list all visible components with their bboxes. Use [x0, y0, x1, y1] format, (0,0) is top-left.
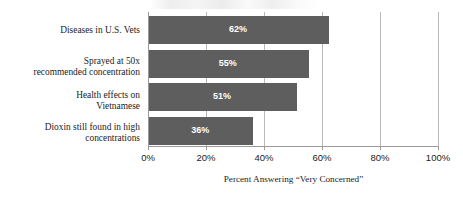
axis-tick-label-100: 100%	[418, 152, 458, 163]
category-label-0-line-0: Diseases in U.S. Vets	[0, 25, 140, 36]
axis-tick-20	[206, 146, 207, 150]
category-label-2-line-0: Health effects on	[0, 90, 140, 101]
category-label-0: Diseases in U.S. Vets	[0, 25, 140, 36]
plot-area: 62%55%51%36%	[148, 12, 438, 146]
category-label-2-line-1: Vietnamese	[0, 101, 140, 112]
bar-value-label-0: 62%	[229, 25, 247, 34]
axis-tick-80	[380, 146, 381, 150]
category-axis-line	[148, 146, 439, 147]
bar-value-label-2: 51%	[213, 92, 231, 101]
bar-value-label-1: 55%	[219, 59, 237, 68]
axis-tick-label-80: 80%	[360, 152, 400, 163]
category-label-1-line-1: recommended concentration	[0, 67, 140, 78]
category-label-1: Sprayed at 50x recommended concentration	[0, 56, 140, 79]
axis-tick-60	[322, 146, 323, 150]
category-label-3-line-0: Dioxin still found in high	[0, 122, 140, 133]
axis-tick-100	[438, 146, 439, 150]
gridline-100	[438, 12, 439, 146]
axis-tick-40	[264, 146, 265, 150]
category-label-1-line-0: Sprayed at 50x	[0, 56, 140, 67]
gridline-80	[380, 12, 381, 146]
category-label-3: Dioxin still found in high concentration…	[0, 122, 140, 145]
category-label-2: Health effects on Vietnamese	[0, 90, 140, 113]
axis-tick-label-20: 20%	[186, 152, 226, 163]
axis-tick-label-0: 0%	[128, 152, 168, 163]
bar-value-label-3: 36%	[191, 126, 209, 135]
bar-chart: Diseases in U.S. Vets Sprayed at 50x rec…	[0, 0, 463, 198]
axis-tick-0	[148, 146, 149, 150]
x-axis-title: Percent Answering “Very Concerned”	[148, 174, 439, 184]
axis-tick-label-60: 60%	[302, 152, 342, 163]
scan-artifact	[150, 0, 320, 9]
category-label-3-line-1: concentrations	[0, 133, 140, 144]
category-axis-labels: Diseases in U.S. Vets Sprayed at 50x rec…	[0, 12, 144, 146]
axis-tick-label-40: 40%	[244, 152, 284, 163]
